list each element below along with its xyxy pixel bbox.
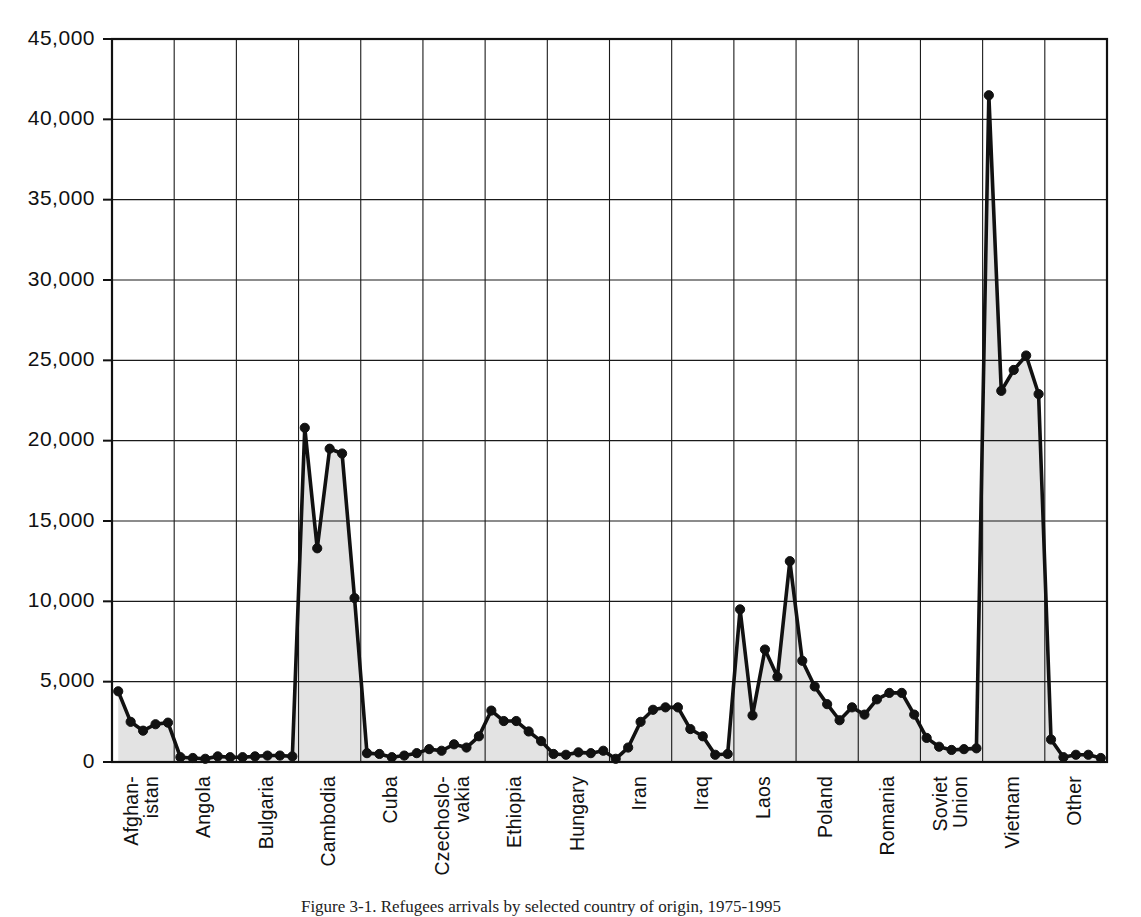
data-point-marker [561,750,570,759]
x-axis-label: Iraq [690,776,712,810]
data-point-marker [1084,750,1093,759]
x-axis-label: Romania [876,776,898,855]
y-axis-label: 0 [83,749,95,772]
data-point-marker [263,751,272,760]
x-axis-label: Afghan- [120,776,142,846]
data-point-marker [773,672,782,681]
x-axis-label: Bulgaria [255,776,277,849]
x-axis-label-group: Cuba [379,776,401,823]
data-point-marker [624,743,633,752]
data-point-marker [1059,753,1068,762]
x-axis-label-group: Laos [752,776,774,819]
data-point-marker [785,557,794,566]
data-point-marker [313,544,322,553]
x-axis-label: vakia [451,776,473,823]
x-axis-label: Hungary [566,776,588,851]
data-point-marker [735,605,744,614]
x-axis-label-group: Cambodia [317,776,339,866]
data-point-marker [437,746,446,755]
data-point-marker [910,710,919,719]
data-point-marker [947,745,956,754]
x-axis-label-group: Iran [628,776,650,810]
data-point-marker [984,91,993,100]
data-point-marker [337,449,346,458]
data-point-marker [300,423,309,432]
x-axis-label: Cambodia [317,776,339,866]
x-axis-label: Angola [192,776,214,838]
data-point-marker [325,444,334,453]
x-axis-label-group: Vietnam [1001,776,1023,849]
data-point-marker [872,695,881,704]
x-axis-label: Vietnam [1001,776,1023,849]
x-axis-label: Poland [814,776,836,838]
data-point-marker [350,594,359,603]
data-point-marker [798,656,807,665]
x-axis-label-group: SovietUnion [929,776,971,832]
x-axis-label: Laos [752,776,774,819]
y-axis-label: 40,000 [28,106,95,129]
x-axis-label: Soviet [929,776,951,832]
data-point-marker [636,717,645,726]
data-point-marker [959,745,968,754]
data-point-marker [487,706,496,715]
data-point-marker [922,733,931,742]
data-point-marker [151,720,160,729]
y-axis-label: 45,000 [28,26,95,49]
x-axis-label-group: Angola [192,776,214,838]
x-axis-label: Iran [628,776,650,810]
x-axis-label-group: Other [1063,776,1085,826]
data-point-marker [288,752,297,761]
x-axis-label: Union [949,776,971,828]
x-axis-label: Cuba [379,776,401,823]
data-point-marker [1009,365,1018,374]
y-axis-label: 30,000 [28,267,95,290]
data-point-marker [462,743,471,752]
x-axis-label-group: Hungary [566,776,588,851]
data-point-marker [201,754,210,763]
data-point-marker [362,749,371,758]
data-point-marker [226,753,235,762]
data-point-marker [114,687,123,696]
data-point-marker [1022,351,1031,360]
data-point-marker [823,700,832,709]
y-axis-label: 10,000 [28,588,95,611]
data-point-marker [449,740,458,749]
data-point-marker [810,682,819,691]
data-point-marker [412,749,421,758]
data-point-marker [997,386,1006,395]
data-point-marker [648,705,657,714]
y-axis-label: 15,000 [28,508,95,531]
data-point-marker [387,753,396,762]
data-point-marker [847,703,856,712]
data-point-marker [238,753,247,762]
data-point-marker [661,703,670,712]
data-point-marker [885,688,894,697]
data-point-marker [686,724,695,733]
data-point-marker [611,754,620,763]
data-point-marker [835,716,844,725]
data-point-marker [1071,750,1080,759]
data-point-marker [934,742,943,751]
x-axis-label-group: Poland [814,776,836,838]
data-point-marker [499,716,508,725]
x-axis-label: Czechoslo- [431,776,453,876]
data-point-marker [1034,389,1043,398]
data-point-marker [574,748,583,757]
x-axis-label-group: Iraq [690,776,712,810]
data-point-marker [474,732,483,741]
data-point-marker [698,732,707,741]
data-point-marker [375,749,384,758]
x-axis-label: istan [140,776,162,818]
x-axis-label-group: Bulgaria [255,776,277,849]
data-point-marker [860,710,869,719]
data-point-marker [586,749,595,758]
data-point-marker [972,744,981,753]
data-point-marker [711,750,720,759]
data-point-marker [138,726,147,735]
data-point-marker [673,703,682,712]
y-axis-label: 35,000 [28,186,95,209]
data-point-marker [163,718,172,727]
figure-caption: Figure 3-1. Refugees arrivals by selecte… [301,897,781,916]
data-point-marker [1096,753,1105,762]
x-axis-label: Other [1063,776,1085,826]
